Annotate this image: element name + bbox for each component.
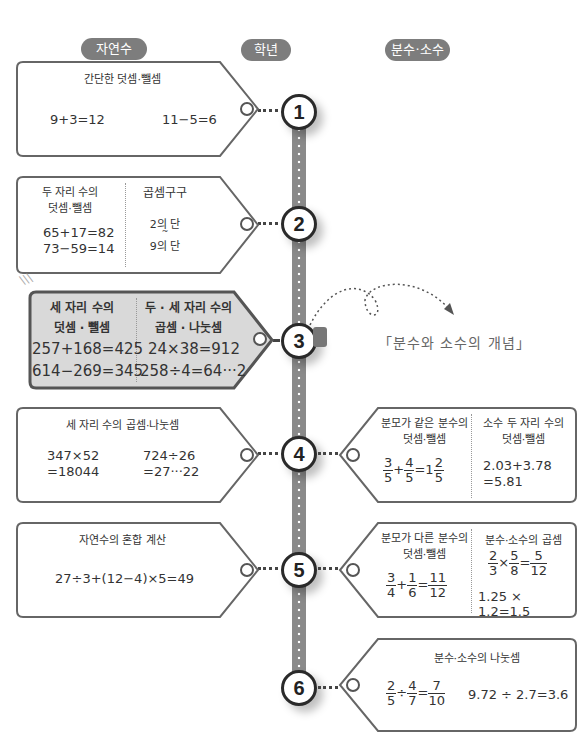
- header-grade: 학년: [241, 39, 291, 61]
- fraction-equation: 23×58=512: [488, 549, 547, 577]
- equation: 614−269=345: [32, 362, 143, 380]
- tag-title: 두 자리 수의: [15, 183, 125, 199]
- connector: [318, 686, 338, 689]
- fraction-equation: 35+45=125: [383, 456, 444, 484]
- tag-title: 덧셈·뺄셈: [471, 430, 576, 446]
- numerator: 7: [428, 679, 445, 694]
- tag-fraction-grade4: 분모가 같은 분수의 덧셈·뺄셈 35+45=125 소수 두 자리 수의 덧셈…: [338, 406, 578, 504]
- tag-title: 덧셈·뺄셈: [378, 545, 471, 561]
- connector: [258, 109, 278, 112]
- connector: [258, 452, 278, 455]
- equation: 27÷3+(12−4)×5=49: [55, 571, 194, 586]
- timeline-spine: [292, 110, 306, 700]
- equation: =18044: [47, 464, 99, 479]
- tag-title: 곱셈구구: [125, 183, 205, 200]
- operator: ÷: [396, 685, 407, 700]
- tag-title: 덧셈·뺄셈: [378, 430, 471, 446]
- connector: [318, 452, 338, 455]
- header-natural-numbers: 자연수: [81, 38, 147, 60]
- grade-node-6: 6: [281, 670, 317, 706]
- tag-title: 분모가 같은 분수의: [378, 414, 471, 430]
- equation: 9.72 ÷ 2.7=3.6: [468, 687, 568, 702]
- tag-natural-grade2: 두 자리 수의 덧셈·뺄셈 65+17=82 73−59=14 곱셈구구 2의 …: [15, 175, 260, 275]
- dotted-arrow-icon: [300, 275, 460, 335]
- denominator: 10: [428, 694, 445, 708]
- tag-title: 곱셈 · 나눗셈: [136, 318, 241, 335]
- operator: =: [417, 577, 428, 592]
- tag-natural-grade1: 간단한 덧셈·뺄셈 9+3=12 11−5=6: [15, 60, 260, 158]
- tag-natural-grade3: 세 자리 수의 덧셈 · 뺄셈 257+168=425 614−269=345 …: [28, 290, 274, 390]
- grade-node-5: 5: [281, 552, 317, 588]
- tag-title: 두 · 세 자리 수의: [136, 298, 241, 315]
- tag-title: 분모가 다른 분수의: [378, 529, 471, 545]
- table-range: ~: [125, 227, 205, 236]
- tag-title: 세 자리 수의: [28, 298, 136, 315]
- connector: [258, 222, 278, 225]
- tag-title: 분수·소수의 곱셈: [471, 531, 576, 547]
- numerator: 1: [407, 571, 417, 586]
- numerator: 11: [428, 571, 447, 586]
- denominator: 5: [386, 694, 396, 708]
- numerator: 2: [386, 679, 396, 694]
- equation: 9+3=12: [50, 112, 105, 127]
- operator: ×: [498, 555, 509, 570]
- equation: =5.81: [483, 474, 523, 489]
- operator: =1: [414, 462, 433, 477]
- connector: [318, 567, 338, 570]
- equation: 347×52: [47, 448, 99, 463]
- tag-title: 덧셈·뺄셈: [15, 199, 125, 215]
- tag-natural-grade4: 세 자리 수의 곱셈·나눗셈 347×52 =18044 724÷26 =27·…: [15, 406, 260, 504]
- grade-node-2: 2: [281, 206, 317, 242]
- denominator: 6: [407, 586, 417, 600]
- equation: 73−59=14: [43, 241, 114, 256]
- numerator: 3: [386, 571, 396, 586]
- tag-title: 분수·소수의 나눗셈: [378, 649, 576, 665]
- denominator: 8: [509, 564, 519, 578]
- numerator: 5: [530, 549, 547, 564]
- header-fractions-decimals: 분수·소수: [385, 39, 450, 61]
- concept-note: 「분수와 소수의 개념」: [378, 332, 531, 352]
- numerator: 3: [383, 456, 393, 471]
- fraction-equation: 25÷47=710: [386, 679, 445, 707]
- denominator: 3: [488, 564, 498, 578]
- denominator: 12: [428, 586, 447, 600]
- fraction-equation: 34+16=1112: [386, 571, 447, 599]
- numerator: 4: [404, 456, 414, 471]
- tag-natural-grade5: 자연수의 혼합 계산 27÷3+(12−4)×5=49: [15, 521, 260, 619]
- operator: =: [519, 555, 530, 570]
- tag-fraction-grade5: 분모가 다른 분수의 덧셈·뺄셈 34+16=1112 분수·소수의 곱셈 23…: [338, 521, 578, 619]
- numerator: 2: [488, 549, 498, 564]
- equation: 258÷4=64···2: [140, 362, 246, 380]
- tag-title: 세 자리 수의 곱셈·나눗셈: [15, 416, 230, 432]
- tag-title: 자연수의 혼합 계산: [15, 531, 230, 547]
- denominator: 5: [404, 471, 414, 485]
- numerator: 5: [509, 549, 519, 564]
- numerator: 2: [434, 456, 444, 471]
- operator: +: [396, 577, 407, 592]
- equation: 724÷26: [143, 448, 195, 463]
- bus-icon: [313, 327, 327, 347]
- grade-node-1: 1: [281, 94, 317, 130]
- operator: +: [393, 462, 404, 477]
- tag-title: 간단한 덧셈·뺄셈: [15, 70, 230, 86]
- numerator: 4: [407, 679, 417, 694]
- denominator: 4: [386, 586, 396, 600]
- tag-title: 소수 두 자리 수의: [471, 414, 576, 430]
- denominator: 12: [530, 564, 547, 578]
- grade-node-4: 4: [281, 436, 317, 472]
- equation: 24×38=912: [148, 340, 240, 358]
- equation: 65+17=82: [43, 225, 114, 240]
- denominator: 5: [434, 471, 444, 485]
- denominator: 5: [383, 471, 393, 485]
- denominator: 7: [407, 694, 417, 708]
- operator: =: [417, 685, 428, 700]
- tag-fraction-grade6: 분수·소수의 나눗셈 25÷47=710 9.72 ÷ 2.7=3.6: [338, 637, 578, 735]
- table-range: 9의 단: [125, 237, 205, 253]
- equation: 257+168=425: [32, 340, 143, 358]
- connector: [258, 567, 278, 570]
- equation: 2.03+3.78: [483, 458, 552, 473]
- equation: =27···22: [143, 464, 199, 479]
- tag-title: 덧셈 · 뺄셈: [28, 318, 136, 335]
- equation: 1.25 × 1.2=1.5: [478, 589, 578, 619]
- equation: 11−5=6: [162, 112, 217, 127]
